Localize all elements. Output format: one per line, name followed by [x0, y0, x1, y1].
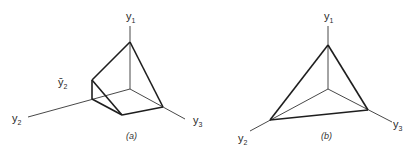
edge-y1-y3-b: [328, 45, 368, 110]
axis-y3-b: [328, 89, 392, 122]
label-y3-a: y3: [193, 114, 203, 128]
label-y2-a: y2: [12, 112, 22, 126]
axis-y2-a: [28, 89, 130, 117]
edge-ybar2-bottom-a: [92, 80, 122, 115]
edge-y1-y2-b: [270, 45, 328, 120]
caption-b: (b): [321, 131, 332, 141]
edge-y2-y3-b: [270, 110, 368, 120]
edge-apex-ybar2-a: [92, 42, 130, 80]
edge-bottom-y3-a: [122, 107, 163, 115]
axis-y3-a: [130, 89, 185, 119]
panel-b: y1 y2 y3 (b): [238, 10, 403, 146]
diagram-canvas: y1 y2 y3 ȳ2 (a) y1 y2 y3 (b): [0, 0, 413, 151]
label-y3-b: y3: [393, 118, 403, 132]
label-y2-b: y2: [238, 132, 248, 146]
edge-apex-y3-a: [130, 42, 163, 107]
panel-a: y1 y2 y3 ȳ2 (a): [12, 10, 203, 141]
edge-y2plane-bottom-a: [92, 99, 122, 115]
label-y1-a: y1: [126, 10, 136, 24]
caption-a: (a): [126, 131, 137, 141]
label-ybar2-a: ȳ2: [58, 76, 68, 90]
label-y1-b: y1: [324, 10, 334, 24]
